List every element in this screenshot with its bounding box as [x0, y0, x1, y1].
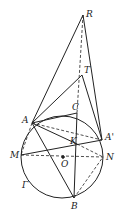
segment-M-A_prime: [21, 140, 102, 155]
segment-R-A_prime: [83, 15, 102, 140]
segment-R-C: [77, 15, 83, 113]
segment-T-A_prime: [82, 75, 102, 140]
label-gamma: Γ: [21, 180, 29, 190]
geometry-diagram: RTCAA'KMNOBΓ: [0, 0, 125, 221]
label-b: B: [70, 201, 78, 211]
label-a: A: [21, 115, 29, 125]
segment-K-N: [77, 144, 103, 157]
center-point-o: [62, 156, 65, 159]
label-m: M: [9, 150, 20, 160]
label-r: R: [85, 9, 93, 19]
label-k: K: [69, 136, 78, 146]
label-n: N: [105, 152, 115, 162]
segment-A-M: [21, 123, 32, 155]
segment-C-B: [74, 113, 77, 198]
segment-T-A: [32, 75, 82, 123]
label-o: O: [61, 159, 69, 169]
label-t: T: [84, 65, 91, 75]
label-a_prime: A': [104, 132, 114, 142]
segment-B-N: [74, 157, 103, 198]
segment-A-C: [32, 113, 77, 123]
label-c: C: [72, 102, 79, 112]
segment-A-A_prime: [32, 123, 102, 140]
